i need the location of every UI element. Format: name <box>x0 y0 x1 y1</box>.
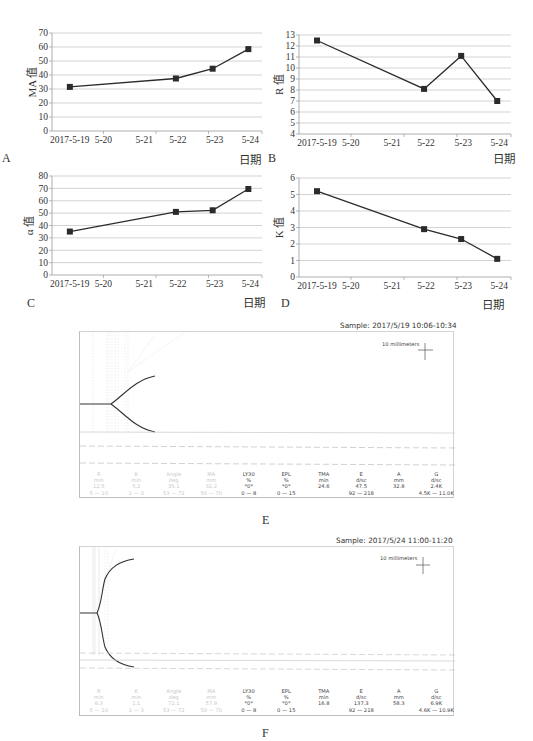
y-tick-label: 5 <box>290 118 295 128</box>
param-range <box>323 490 325 496</box>
y-tick-label: 40 <box>39 221 49 231</box>
y-tick-label: 50 <box>39 56 49 66</box>
x-tick-label: 5-20 <box>95 135 113 145</box>
teg-param-angle: Angledeg72.153 — 72 <box>155 688 193 713</box>
data-point-marker <box>173 209 179 215</box>
teg-sample-e: Sample: 2017/5/19 10:06-10:34 <box>340 321 457 330</box>
teg-param-epl: EPL%*0*0 — 15 <box>268 471 306 496</box>
y-axis-label: α 值 <box>23 216 35 236</box>
y-tick-label: 10 <box>39 112 49 122</box>
x-tick-label: 2017-5-19 <box>297 281 337 291</box>
y-axis-label: R 值 <box>273 74 285 95</box>
data-point-marker <box>210 207 216 213</box>
x-tick-label: 5-24 <box>242 135 260 145</box>
teg-params-f: Rmin6.35 — 10Kmin1.11 — 3Angledeg72.153 … <box>80 688 455 713</box>
y-tick-label: 6 <box>290 107 295 117</box>
x-tick-label: 5-23 <box>206 279 224 289</box>
y-tick-label: 20 <box>39 98 49 108</box>
param-range: 50 — 70 <box>200 707 222 713</box>
y-tick-label: 9 <box>290 74 295 84</box>
teg-param-tma: TMAmin16.8 <box>305 688 343 713</box>
y-tick-label: 10 <box>286 63 296 73</box>
x-tick-label: 5-24 <box>491 281 509 291</box>
series-line <box>70 49 249 87</box>
x-tick-label: 2017-5-19 <box>297 138 337 148</box>
param-range <box>323 707 325 713</box>
param-range: 53 — 72 <box>163 707 185 713</box>
y-axis-label: MA 值 <box>26 67 38 98</box>
data-point-marker <box>458 53 464 59</box>
panel-label-e: E <box>262 513 269 528</box>
y-tick-label: 70 <box>39 184 49 194</box>
param-range: 0 — 15 <box>277 707 295 713</box>
x-tick-label: 5-21 <box>136 135 154 145</box>
data-point-marker <box>245 186 251 192</box>
teg-trace-panel-e: 10 millimeters Rmin12.55 — 10Kmin5.21 — … <box>79 331 454 498</box>
series-line <box>317 191 497 259</box>
y-tick-label: 8 <box>290 85 295 95</box>
y-tick-label: 10 <box>39 258 49 268</box>
teg-param-tma: TMAmin24.6 <box>305 471 343 496</box>
teg-trace-panel-f: 10 millimeters Rmin6.35 — 10Kmin1.11 — 3… <box>79 546 454 716</box>
panel-label-a: A <box>2 151 11 166</box>
line-charts-svg: 0102030405060702017-5-195-205-215-225-23… <box>0 0 533 320</box>
x-axis-name-a: 日期 <box>239 151 261 167</box>
y-tick-label: 50 <box>39 208 49 218</box>
x-tick-label: 5-21 <box>383 138 401 148</box>
param-range: 4.6K — 10.9K <box>419 707 454 713</box>
teg-param-g: Gd/sc2.4K4.5K — 11.0K <box>418 471 456 496</box>
data-point-marker <box>210 66 216 72</box>
data-point-marker <box>314 188 320 194</box>
data-point-marker <box>494 256 500 262</box>
series-line <box>317 41 497 102</box>
x-tick-label: 5-20 <box>342 281 360 291</box>
data-point-marker <box>421 86 427 92</box>
data-point-marker <box>494 98 500 104</box>
panel-label-f: F <box>262 726 269 741</box>
x-tick-label: 5-22 <box>169 135 187 145</box>
data-point-marker <box>67 84 73 90</box>
x-tick-label: 5-22 <box>417 138 435 148</box>
teg-params-e: Rmin12.55 — 10Kmin5.21 — 3Angledeg35.153… <box>80 471 455 496</box>
y-tick-label: 12 <box>286 41 296 51</box>
y-tick-label: 30 <box>39 84 49 94</box>
teg-param-a: Amm58.3 <box>380 688 418 713</box>
y-tick-label: 20 <box>39 246 49 256</box>
teg-param-a: Amm32.8 <box>380 471 418 496</box>
param-range: 0 — 8 <box>241 490 256 496</box>
x-tick-label: 5-20 <box>342 138 360 148</box>
data-point-marker <box>245 46 251 52</box>
data-point-marker <box>314 38 320 44</box>
teg-param-g: Gd/sc6.9K4.6K — 10.9K <box>418 688 456 713</box>
param-range <box>398 490 400 496</box>
x-tick-label: 5-24 <box>242 279 260 289</box>
data-point-marker <box>173 76 179 82</box>
y-tick-label: 80 <box>39 171 49 181</box>
y-tick-label: 1 <box>290 256 295 266</box>
scale-label-f: 10 millimeters <box>380 555 417 561</box>
x-axis-name-c: 日期 <box>243 294 265 310</box>
x-axis-name-d: 日期 <box>482 296 504 312</box>
teg-param-e: Ed/sc47.592 — 218 <box>343 471 381 496</box>
x-tick-label: 5-23 <box>454 281 472 291</box>
x-tick-label: 5-21 <box>383 281 401 291</box>
x-tick-label: 5-23 <box>206 135 224 145</box>
y-tick-label: 2 <box>290 239 295 249</box>
param-range: 0 — 15 <box>277 490 295 496</box>
teg-param-epl: EPL%*0*0 — 15 <box>268 688 306 713</box>
y-tick-label: 6 <box>290 173 295 183</box>
param-range: 5 — 10 <box>90 707 108 713</box>
line-chart-b: 456789101112132017-5-195-205-215-225-235… <box>273 30 511 148</box>
x-tick-label: 5-20 <box>95 279 113 289</box>
teg-param-r: Rmin12.55 — 10 <box>80 471 118 496</box>
y-axis-label: K 值 <box>273 217 285 239</box>
teg-param-ly30: LY30%*0*0 — 8 <box>230 688 268 713</box>
teg-param-angle: Angledeg35.153 — 72 <box>155 471 193 496</box>
line-chart-a: 0102030405060702017-5-195-205-215-225-23… <box>26 28 262 145</box>
line-chart-c: 010203040506070802017-5-195-205-215-225-… <box>23 171 262 289</box>
scale-label-e: 10 millimeters <box>382 341 419 347</box>
y-tick-label: 11 <box>286 52 295 62</box>
y-tick-label: 4 <box>290 206 295 216</box>
y-tick-label: 0 <box>43 270 48 280</box>
param-range: 50 — 70 <box>200 490 222 496</box>
